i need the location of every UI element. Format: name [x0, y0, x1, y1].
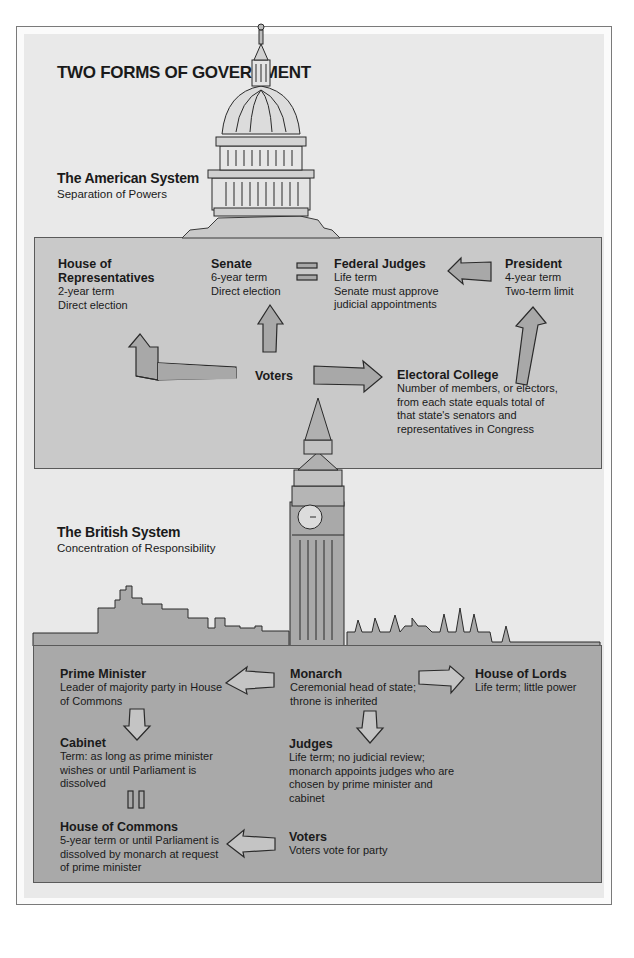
arrow-monarch-to-pm-icon — [226, 667, 274, 694]
arrow-monarch-to-judges-icon — [357, 711, 383, 743]
parallel-bars-icon — [128, 791, 133, 808]
arrow-monarch-to-lords-icon — [419, 666, 464, 693]
arrow-voters-to-commons-icon — [227, 830, 275, 857]
british-arrows — [0, 0, 634, 958]
arrow-pm-to-cabinet-icon — [124, 709, 150, 740]
